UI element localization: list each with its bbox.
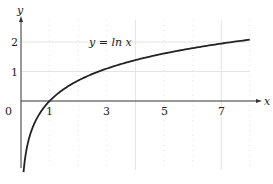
curve-annotation: y = ln x (88, 36, 133, 49)
y-axis-label: y (16, 4, 24, 17)
origin-label: 0 (5, 105, 12, 118)
x-axis-label: x (264, 95, 271, 108)
x-tick-1: 1 (46, 105, 53, 118)
x-tick-5: 5 (161, 105, 168, 118)
ln-chart: y x 0 1 3 5 7 1 2 y = ln x (0, 0, 273, 184)
x-axis-arrow-icon (256, 99, 262, 103)
ln-curve (24, 40, 250, 172)
x-tick-7: 7 (218, 105, 225, 118)
y-tick-2: 2 (11, 36, 18, 49)
y-tick-1: 1 (11, 66, 18, 79)
x-tick-3: 3 (103, 105, 110, 118)
axes (19, 16, 262, 168)
